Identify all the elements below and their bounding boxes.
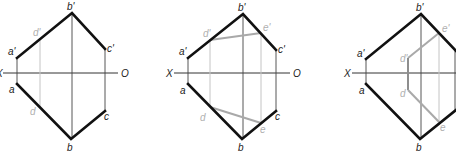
de-front-line <box>408 33 439 58</box>
label-e-prime: e' <box>442 23 451 34</box>
label-b-prime: b' <box>416 2 425 13</box>
label-a: a <box>9 84 15 95</box>
label-d: d <box>30 106 36 117</box>
de-top-line <box>408 90 439 122</box>
label-c: c <box>275 111 280 122</box>
label-b: b <box>238 142 244 153</box>
label-a-prime: a' <box>8 46 17 57</box>
label-c: c <box>104 111 109 122</box>
figure-1: X O a' b' c' d' a b c d <box>0 1 129 153</box>
label-c-prime: c' <box>107 43 115 54</box>
label-b: b <box>416 142 422 153</box>
label-e: e <box>440 122 446 133</box>
axis-label-o: O <box>121 68 129 79</box>
label-e: e <box>260 124 266 135</box>
label-c-prime: c' <box>278 44 286 55</box>
label-e-prime: e' <box>263 22 272 33</box>
axis-label-x: X <box>165 68 173 79</box>
label-a-prime: a' <box>357 48 366 59</box>
label-d-prime: d' <box>203 28 212 39</box>
front-view-edges <box>366 14 456 59</box>
axis-label-o: O <box>293 68 301 79</box>
label-d-prime: d' <box>400 53 409 64</box>
projection-diagram: X O a' b' c' d' a b c d X O a' b' <box>0 0 456 155</box>
front-view-edges <box>17 13 105 58</box>
label-b: b <box>67 142 73 153</box>
axis-label-x: X <box>0 68 3 79</box>
label-b-prime: b' <box>67 1 76 12</box>
label-a: a <box>359 85 365 96</box>
label-d: d <box>400 88 406 99</box>
label-d-prime: d' <box>33 27 42 38</box>
label-d: d <box>200 112 206 123</box>
axis-label-x: X <box>343 68 351 79</box>
label-b-prime: b' <box>238 2 247 13</box>
label-a: a <box>180 85 186 96</box>
figure-2: X O a' b' c' d' e' a b c d e <box>165 2 301 153</box>
figure-3: X a' b' d' e' a b d e <box>343 2 456 153</box>
label-a-prime: a' <box>179 46 188 57</box>
